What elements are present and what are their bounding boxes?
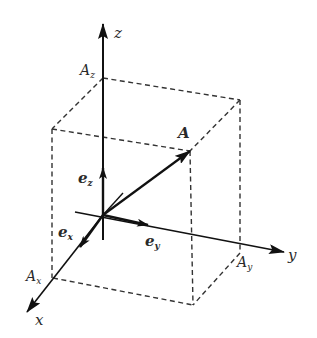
vector-a-label: A [176,124,190,142]
ey-arrow [103,215,148,225]
ax-label: Ax [24,268,41,286]
y-axis [75,212,284,252]
ez-label: ez [78,169,94,188]
vector-a-arrow [103,151,190,215]
ex-label: ex [58,223,74,242]
z-axis-label: z [113,24,122,42]
ay-label: Ay [235,254,253,272]
coordinate-diagram: z y x Az Ay Ax A ez ey ex [0,0,317,338]
ey-label: ey [145,232,161,251]
x-axis-label: x [35,311,44,329]
ex-arrow [80,215,103,247]
az-label: Az [78,62,95,80]
y-axis-label: y [287,246,297,264]
dashed-box [52,78,240,305]
